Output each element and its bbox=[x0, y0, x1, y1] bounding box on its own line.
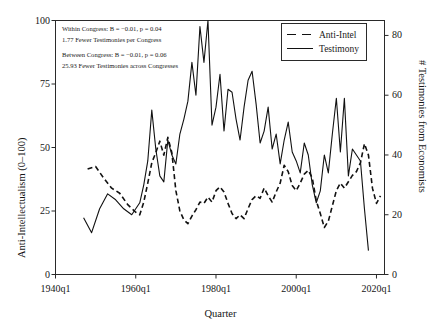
legend-item-testimony: Testimony bbox=[287, 42, 359, 56]
y2-tick-label: 60 bbox=[392, 89, 418, 100]
legend-label-anti-intel: Anti-Intel bbox=[319, 30, 356, 40]
y-tick-label: 100 bbox=[20, 15, 50, 26]
dashed-line-swatch-icon bbox=[287, 30, 313, 40]
annotation-line-4: 25.93 Fewer Testimonies across Congresse… bbox=[62, 61, 178, 72]
legend-item-anti-intel: Anti-Intel bbox=[287, 28, 359, 42]
chart-figure: 0255075100 020406080 1940q11960q11980q12… bbox=[0, 0, 441, 330]
y2-axis-title: # Testimonies from Economists bbox=[417, 60, 428, 193]
y2-tick-label: 80 bbox=[392, 29, 418, 40]
x-tick-label: 2020q1 bbox=[346, 283, 406, 294]
y2-tick-label: 20 bbox=[392, 209, 418, 220]
y-tick-label: 75 bbox=[20, 78, 50, 89]
chart-legend: Anti-Intel Testimony bbox=[281, 23, 367, 61]
annotation-line-2: 1.77 Fewer Testimonies per Congress bbox=[62, 35, 178, 46]
annotation-block: Within Congress: B = −0.01, p = 0.04 1.7… bbox=[62, 24, 178, 72]
x-axis-title: Quarter bbox=[0, 308, 441, 319]
solid-line-swatch-icon bbox=[287, 44, 313, 54]
y2-tick-label: 0 bbox=[392, 269, 418, 280]
y-axis-title: Anti-Intellectualism (0–100) bbox=[16, 138, 27, 258]
legend-label-testimony: Testimony bbox=[319, 44, 359, 54]
x-tick-label: 1960q1 bbox=[106, 283, 166, 294]
x-tick-label: 1980q1 bbox=[186, 283, 246, 294]
annotation-line-3: Between Congress: B = −0.01, p = 0.06 bbox=[62, 50, 178, 61]
x-tick-label: 1940q1 bbox=[26, 283, 86, 294]
annotation-line-1: Within Congress: B = −0.01, p = 0.04 bbox=[62, 24, 178, 35]
x-tick-label: 2000q1 bbox=[266, 283, 326, 294]
y2-tick-label: 40 bbox=[392, 149, 418, 160]
y-tick-label: 0 bbox=[20, 269, 50, 280]
